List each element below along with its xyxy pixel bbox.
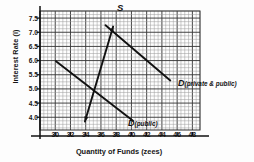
curve-label-d-private-public-subscript: (private & public): [185, 80, 237, 87]
curve-label-supply: S: [117, 2, 123, 13]
curve-label-d-private-public: D(private & public): [178, 72, 237, 90]
curve-label-d-public: D(public): [128, 112, 158, 130]
chart-screenshot: Interest Rate (i) Quantity of Funds (zee…: [0, 0, 254, 162]
curve-label-d-public-subscript: (public): [135, 120, 158, 127]
grid-lines: [40, 11, 200, 130]
